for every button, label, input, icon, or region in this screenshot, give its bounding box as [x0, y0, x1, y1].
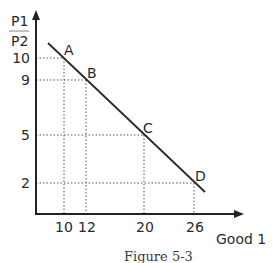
y-tick-2: 2 — [21, 175, 30, 191]
y-tick-5: 5 — [21, 127, 30, 143]
y-tick-10: 10 — [12, 50, 30, 66]
point-label-d: D — [195, 168, 206, 184]
chart-figure: P1 P2 10 9 5 2 10 12 20 26 A B C D Good … — [0, 0, 273, 263]
point-label-b: B — [87, 65, 97, 81]
y-axis-arrow-icon — [32, 10, 40, 20]
point-label-c: C — [143, 120, 153, 136]
figure-caption: Figure 5-3 — [124, 249, 193, 263]
x-tick-12: 12 — [78, 219, 96, 235]
y-tick-9: 9 — [21, 72, 30, 88]
y-label-numerator: P1 — [11, 13, 28, 29]
guide-lines — [36, 58, 194, 214]
y-label-denominator: P2 — [11, 33, 28, 49]
x-axis-label: Good 1 — [216, 231, 266, 247]
x-tick-26: 26 — [186, 219, 204, 235]
point-label-a: A — [64, 42, 74, 58]
x-tick-10: 10 — [55, 219, 73, 235]
price-line — [48, 43, 205, 192]
x-tick-20: 20 — [136, 219, 154, 235]
x-axis-arrow-icon — [234, 210, 244, 218]
